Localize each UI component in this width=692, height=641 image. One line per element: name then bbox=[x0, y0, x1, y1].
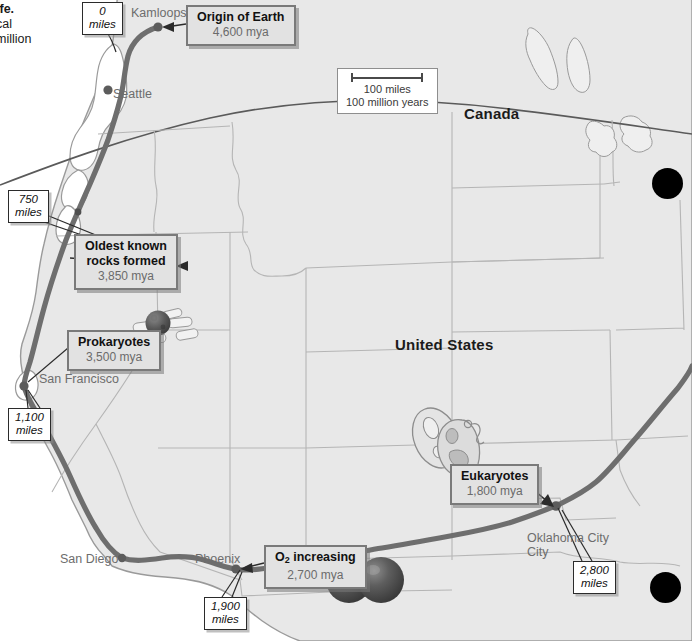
event-box-origin-of-earth[interactable]: Origin of Earth 4,600 mya bbox=[186, 5, 296, 46]
distance-callout-1100-miles[interactable]: 1,100 miles bbox=[8, 408, 51, 441]
scale-bar: 100 miles 100 million years bbox=[337, 68, 438, 114]
edge-text-fragment: ife. cal million bbox=[0, 2, 56, 47]
city-label-san-francisco: San Francisco bbox=[39, 372, 119, 386]
distance-value-1900: 1,900 bbox=[211, 600, 240, 613]
event-box-prokaryotes[interactable]: Prokaryotes 3,500 mya bbox=[67, 330, 161, 371]
scale-bar-time: 100 million years bbox=[346, 96, 429, 109]
event-box-eukaryotes[interactable]: Eukaryotes 1,800 mya bbox=[450, 464, 539, 505]
city-label-oklahoma-city-line2: City bbox=[527, 545, 609, 559]
event-subtitle-origin-of-earth: 4,600 mya bbox=[197, 25, 285, 40]
distance-unit-1100: miles bbox=[15, 424, 44, 437]
distance-unit-1900: miles bbox=[211, 613, 240, 626]
event-title-o2-increasing-post: increasing bbox=[290, 550, 356, 564]
event-subtitle-o2-increasing: 2,700 mya bbox=[275, 568, 356, 583]
event-title-eukaryotes: Eukaryotes bbox=[461, 469, 528, 484]
city-label-oklahoma-city: Oklahoma City City bbox=[527, 531, 609, 559]
page-artifact-hole-top-right bbox=[652, 168, 683, 199]
distance-callout-2800-miles[interactable]: 2,800 miles bbox=[573, 561, 616, 594]
city-label-san-diego: San Diego bbox=[60, 552, 118, 566]
scale-bar-distance: 100 miles bbox=[346, 83, 429, 96]
event-title-origin-of-earth: Origin of Earth bbox=[197, 10, 285, 25]
city-label-seattle: Seattle bbox=[113, 87, 152, 101]
event-title-prokaryotes: Prokaryotes bbox=[78, 335, 150, 350]
event-box-oldest-known-rocks[interactable]: Oldest known rocks formed 3,850 mya bbox=[74, 234, 178, 290]
country-label-canada: Canada bbox=[464, 105, 519, 122]
distance-value-1100: 1,100 bbox=[15, 411, 44, 424]
city-label-phoenix: Phoenix bbox=[195, 552, 240, 566]
edge-text-line-3: million bbox=[0, 32, 56, 47]
page-artifact-hole-bottom-right bbox=[650, 572, 681, 603]
map-root: ife. cal million Canada United States Ka… bbox=[0, 0, 692, 641]
event-title-oldest-known-rocks-line1: Oldest known bbox=[85, 239, 167, 254]
event-subtitle-oldest-known-rocks: 3,850 mya bbox=[85, 269, 167, 284]
event-title-o2-increasing-pre: O bbox=[275, 550, 285, 564]
distance-value-2800: 2,800 bbox=[580, 564, 609, 577]
edge-text-line-2: cal bbox=[0, 17, 56, 32]
city-label-oklahoma-city-line1: Oklahoma City bbox=[527, 531, 609, 545]
distance-unit-750: miles bbox=[15, 206, 42, 219]
distance-unit-0: miles bbox=[89, 18, 116, 31]
event-title-o2-increasing: O2 increasing bbox=[275, 550, 356, 568]
distance-value-0: 0 bbox=[89, 5, 116, 18]
event-subtitle-eukaryotes: 1,800 mya bbox=[461, 484, 528, 499]
distance-callout-750-miles[interactable]: 750 miles bbox=[8, 190, 49, 223]
edge-text-line-1: ife. bbox=[0, 2, 56, 17]
event-subtitle-prokaryotes: 3,500 mya bbox=[78, 350, 150, 365]
event-box-o2-increasing[interactable]: O2 increasing 2,700 mya bbox=[264, 545, 367, 589]
distance-callout-1900-miles[interactable]: 1,900 miles bbox=[204, 597, 247, 630]
country-label-united-states: United States bbox=[395, 336, 493, 353]
distance-value-750: 750 bbox=[15, 193, 42, 206]
event-title-oldest-known-rocks-line2: rocks formed bbox=[85, 254, 167, 269]
city-label-kamloops: Kamloops bbox=[131, 6, 187, 20]
distance-callout-0-miles[interactable]: 0 miles bbox=[82, 2, 123, 35]
distance-unit-2800: miles bbox=[580, 577, 609, 590]
scale-bar-rule bbox=[351, 73, 423, 82]
